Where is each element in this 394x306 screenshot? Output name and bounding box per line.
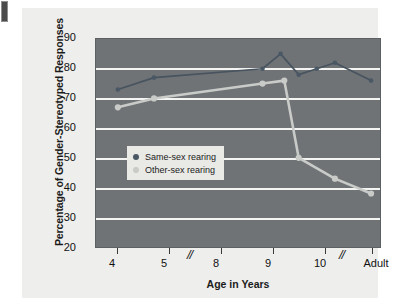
data-point — [315, 66, 320, 71]
data-point — [116, 87, 121, 92]
data-point — [333, 60, 338, 65]
data-point — [368, 190, 374, 196]
legend-marker-other-sex — [133, 167, 139, 173]
y-tick-label: 70 — [50, 92, 76, 102]
data-point — [151, 95, 157, 101]
y-tick-label: 90 — [50, 32, 76, 42]
x-tick — [221, 248, 222, 254]
legend-item-same-sex: Same-sex rearing — [133, 150, 216, 163]
x-tick-label: 9 — [253, 257, 283, 269]
legend-label-same-sex: Same-sex rearing — [145, 152, 216, 162]
x-tick — [117, 248, 118, 254]
series-lines — [96, 39, 380, 247]
data-point — [281, 78, 287, 84]
x-tick — [325, 248, 326, 254]
x-axis-tick-labels: 4 5 // 8 9 10 // Adult — [75, 257, 394, 273]
data-point — [369, 78, 374, 83]
x-tick-label: 10 — [305, 257, 335, 269]
y-axis-tick-labels: 90 80 70 60 50 40 30 20 — [50, 32, 76, 254]
data-point — [260, 66, 265, 71]
chart-legend: Same-sex rearing Other-sex rearing — [127, 146, 224, 180]
x-tick-label: 8 — [201, 257, 231, 269]
axis-break-icon-2: // — [339, 247, 344, 262]
line-same-sex-rearing — [118, 54, 371, 90]
data-point — [259, 81, 265, 87]
legend-item-other-sex: Other-sex rearing — [133, 163, 216, 176]
x-tick-label: Adult — [355, 257, 394, 269]
legend-marker-same-sex — [133, 154, 139, 160]
data-point — [278, 52, 283, 57]
legend-label-other-sex: Other-sex rearing — [145, 165, 215, 175]
x-axis-title: Age in Years — [95, 278, 381, 290]
page-edge-marker — [1, 1, 8, 22]
chart-panel: Percentage of Gender-Stereotyped Respons… — [22, 8, 378, 298]
x-tick-label: 4 — [97, 257, 127, 269]
y-tick-label: 40 — [50, 182, 76, 192]
data-point — [152, 75, 157, 80]
x-tick — [169, 248, 170, 254]
data-point — [332, 176, 338, 182]
y-tick-label: 30 — [50, 212, 76, 222]
axis-break-icon-1: // — [187, 247, 192, 262]
y-tick-label: 60 — [50, 122, 76, 132]
x-tick — [273, 248, 274, 254]
plot-area: Same-sex rearing Other-sex rearing — [95, 38, 381, 248]
data-point — [115, 104, 121, 110]
data-point — [296, 155, 302, 161]
y-tick-label: 20 — [50, 242, 76, 252]
data-point — [296, 72, 301, 77]
y-tick-label: 80 — [50, 62, 76, 72]
y-tick-label: 50 — [50, 152, 76, 162]
x-tick — [372, 248, 373, 254]
x-tick-label: 5 — [149, 257, 179, 269]
